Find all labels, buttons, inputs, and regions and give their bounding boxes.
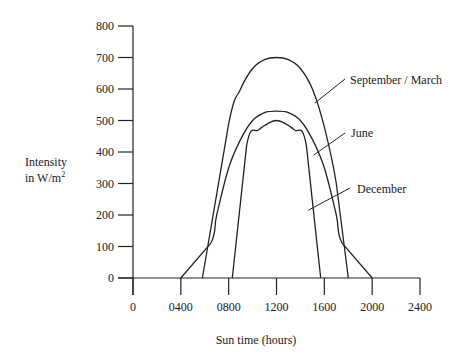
y-axis-label-line2: in W/m2 [25, 170, 65, 185]
x-ticks: 0040008001200160020002400 [130, 278, 432, 314]
y-tick-label: 600 [96, 82, 114, 96]
y-tick-label: 700 [96, 51, 114, 65]
series-june-label: June [351, 126, 373, 140]
x-tick-label: 1200 [265, 300, 289, 314]
x-tick-label: 0400 [169, 300, 193, 314]
x-axis-label: Sun time (hours) [216, 333, 297, 347]
y-axis-label-line1: Intensity [25, 155, 67, 169]
series-september-march-leader [315, 79, 345, 103]
chart: 0100200300400500600700800 00400080012001… [0, 0, 473, 363]
y-ticks: 0100200300400500600700800 [96, 19, 133, 285]
series-december-leader [308, 188, 350, 210]
series-june-line [181, 111, 372, 278]
y-axis-label-superscript: 2 [61, 170, 65, 179]
x-tick-label: 2000 [360, 300, 384, 314]
axes [118, 26, 420, 295]
y-tick-label: 200 [96, 208, 114, 222]
series-september-march-line [202, 58, 348, 279]
y-tick-label: 100 [96, 240, 114, 254]
series-december-line [232, 121, 320, 279]
y-tick-label: 300 [96, 177, 114, 191]
y-axis-label-unit: in W/m [25, 171, 62, 185]
y-tick-label: 0 [108, 271, 114, 285]
series-december-label: December [357, 182, 406, 196]
curves [181, 58, 372, 279]
series-september-march-label: September / March [350, 73, 442, 87]
series-june-leader [314, 133, 345, 155]
y-tick-label: 400 [96, 145, 114, 159]
x-tick-label: 1600 [312, 300, 336, 314]
x-tick-label: 2400 [408, 300, 432, 314]
x-tick-label: 0800 [217, 300, 241, 314]
y-tick-label: 500 [96, 114, 114, 128]
x-tick-label: 0 [130, 300, 136, 314]
y-tick-label: 800 [96, 19, 114, 33]
